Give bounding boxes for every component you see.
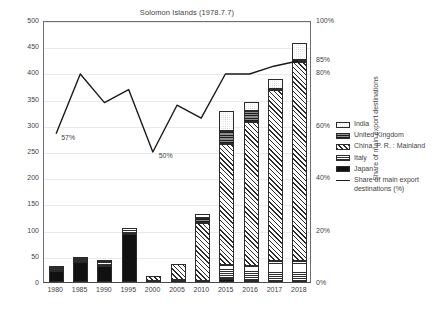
plot-area: 57%50% xyxy=(43,21,311,283)
legend-item-japan[interactable]: Japan xyxy=(336,165,446,174)
y-tick-label-right: 0% xyxy=(316,279,326,286)
legend-label: China, P. R. : Mainland xyxy=(354,142,425,151)
swatch-china-icon xyxy=(336,144,350,150)
annotation-last-share: 85% xyxy=(316,56,330,63)
legend-label: Italy xyxy=(354,154,367,163)
legend-label: Japan xyxy=(354,165,373,174)
swatch-italy-icon xyxy=(336,155,350,161)
swatch-line-icon xyxy=(336,180,350,181)
swatch-japan-icon xyxy=(336,166,350,172)
chart-title: Solomon Islands (1978.7.7) xyxy=(62,8,312,17)
legend-item-india[interactable]: India xyxy=(336,120,446,129)
annotation-min-share: 50% xyxy=(159,152,173,159)
y-tick-label: 250 xyxy=(13,148,39,155)
swatch-united-kingdom-icon xyxy=(336,133,350,139)
y-tick-label-right: 80% xyxy=(316,69,330,76)
y-tick-label: 0 xyxy=(13,279,39,286)
chart-legend: India United Kingdom China, P. R. : Main… xyxy=(336,120,446,196)
y-tick-label-right: 60% xyxy=(316,122,330,129)
y-tick-label: 200 xyxy=(13,174,39,181)
legend-label: Share of main export destinations (%) xyxy=(354,176,436,193)
y-tick-label-right: 100% xyxy=(316,17,334,24)
y-tick-label: 300 xyxy=(13,122,39,129)
legend-item-share-line[interactable]: Share of main export destinations (%) xyxy=(336,176,446,193)
legend-label: United Kingdom xyxy=(354,131,404,140)
share-line xyxy=(56,61,298,152)
swatch-india-icon xyxy=(336,122,350,128)
legend-label: India xyxy=(354,120,369,129)
y-tick-label: 50 xyxy=(13,253,39,260)
annotation-first-share: 57% xyxy=(61,134,75,141)
line-series xyxy=(44,22,310,282)
y-tick-label: 500 xyxy=(13,17,39,24)
legend-item-china[interactable]: China, P. R. : Mainland xyxy=(336,142,446,151)
chart-figure: Solomon Islands (1978.7.7) 0501001502002… xyxy=(0,0,447,316)
legend-item-united-kingdom[interactable]: United Kingdom xyxy=(336,131,446,140)
y-tick-label: 100 xyxy=(13,227,39,234)
x-tick-label: 2018 xyxy=(282,286,316,293)
y-tick-label: 450 xyxy=(13,43,39,50)
y-tick-label-right: 20% xyxy=(316,227,330,234)
y-tick-label: 400 xyxy=(13,69,39,76)
y-tick-label-right: 40% xyxy=(316,174,330,181)
legend-item-italy[interactable]: Italy xyxy=(336,154,446,163)
y-tick-label: 350 xyxy=(13,96,39,103)
y-tick-label: 150 xyxy=(13,200,39,207)
